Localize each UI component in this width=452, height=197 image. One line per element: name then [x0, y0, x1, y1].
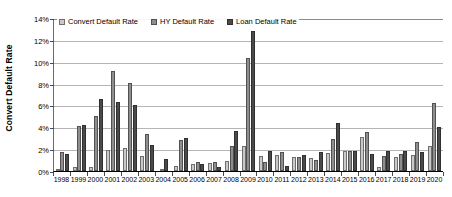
- y-axis-tick-label: 12%: [34, 36, 49, 45]
- bar-group-2012: [291, 19, 308, 171]
- bar-group-2006: [189, 19, 206, 171]
- bar-2004-loan: [164, 159, 168, 171]
- bar-2020-hy: [432, 103, 436, 171]
- bar-2019-hy: [415, 142, 419, 172]
- bar-group-2018: [392, 19, 409, 171]
- bar-2017-hy: [382, 156, 386, 171]
- bar-group-2014: [325, 19, 342, 171]
- bar-group-1998: [54, 19, 71, 171]
- y-axis-tickmark: [50, 150, 54, 151]
- bar-2019-convert: [411, 155, 415, 171]
- bar-group-2004: [155, 19, 172, 171]
- x-axis-tick-label: 2011: [274, 176, 289, 183]
- chart-legend: Convert Default RateHY Default RateLoan …: [57, 15, 299, 28]
- bar-group-2013: [308, 19, 325, 171]
- bar-2008-hy: [230, 146, 234, 171]
- x-axis-tick-label: 2006: [189, 176, 205, 183]
- legend-entry-hy[interactable]: HY Default Rate: [151, 17, 214, 26]
- y-axis-tick-label: 10%: [34, 58, 49, 67]
- x-axis-tick-label: 2007: [206, 176, 222, 183]
- bar-2001-convert: [106, 150, 110, 171]
- legend-entry-loan[interactable]: Loan Default Rate: [227, 17, 296, 26]
- legend-label: Loan Default Rate: [236, 17, 296, 26]
- bar-group-2000: [88, 19, 105, 171]
- bar-1999-loan: [82, 125, 86, 171]
- y-axis-tick-labels: 0%2%4%6%8%10%12%14%: [16, 14, 52, 172]
- y-axis-tick-label: 0%: [38, 168, 49, 177]
- bar-2016-hy: [365, 132, 369, 171]
- bar-group-2007: [206, 19, 223, 171]
- bar-2002-hy: [128, 83, 132, 171]
- x-axis-tickmark: [443, 172, 444, 176]
- x-axis-tick-label: 1999: [71, 176, 87, 183]
- x-axis-tick-label: 2008: [223, 176, 239, 183]
- bar-2013-convert: [309, 158, 313, 171]
- y-axis-tick-label: 4%: [38, 124, 49, 133]
- bar-group-2009: [240, 19, 257, 171]
- bar-2003-loan: [150, 145, 154, 171]
- y-axis-title-text: Convert Default Rate: [4, 44, 14, 131]
- x-axis-tick-label: 2016: [359, 176, 375, 183]
- y-axis-tickmark: [50, 41, 54, 42]
- bar-2009-hy: [246, 58, 250, 171]
- x-axis-tick-label: 2019: [410, 176, 426, 183]
- bar-2010-loan: [268, 151, 272, 171]
- bar-2011-convert: [275, 155, 279, 171]
- default-rate-bar-chart: Convert Default Rate 0%2%4%6%8%10%12%14%…: [0, 0, 452, 197]
- x-axis-tick-label: 2013: [308, 176, 324, 183]
- bar-2015-hy: [348, 151, 352, 171]
- x-axis-tick-label: 2002: [122, 176, 138, 183]
- bar-group-2010: [257, 19, 274, 171]
- bar-2013-loan: [319, 152, 323, 171]
- bar-2008-loan: [234, 131, 238, 171]
- bar-2010-convert: [259, 156, 263, 171]
- x-axis-tick-label: 1998: [54, 176, 70, 183]
- bar-2005-hy: [179, 140, 183, 171]
- bar-2004-convert: [160, 169, 164, 171]
- bar-2011-hy: [280, 152, 284, 171]
- bar-2012-convert: [292, 157, 296, 171]
- bar-2015-loan: [353, 151, 357, 171]
- bar-group-2017: [375, 19, 392, 171]
- bar-1999-convert: [73, 167, 77, 171]
- x-axis-tick-label: 2001: [105, 176, 121, 183]
- bar-group-2019: [409, 19, 426, 171]
- bar-2014-loan: [336, 123, 340, 171]
- bar-2013-hy: [314, 160, 318, 171]
- bar-1998-convert: [56, 169, 60, 171]
- legend-swatch-loan-icon: [227, 19, 233, 25]
- bar-2005-convert: [174, 166, 178, 171]
- x-axis-tick-label: 2012: [291, 176, 307, 183]
- bar-2018-loan: [403, 151, 407, 171]
- y-axis-tickmark: [50, 63, 54, 64]
- legend-label: HY Default Rate: [160, 17, 214, 26]
- bar-2012-loan: [302, 155, 306, 171]
- bar-group-1999: [71, 19, 88, 171]
- bar-2012-hy: [297, 157, 301, 171]
- bar-2014-convert: [326, 153, 330, 171]
- bar-group-2002: [122, 19, 139, 171]
- bar-2009-loan: [251, 31, 255, 171]
- bar-2005-loan: [184, 138, 188, 171]
- bar-2003-convert: [140, 156, 144, 171]
- bar-2009-convert: [242, 146, 246, 171]
- bar-2007-hy: [213, 162, 217, 171]
- x-axis-tick-label: 2004: [155, 176, 171, 183]
- x-axis-tick-label: 2005: [172, 176, 188, 183]
- bar-group-2011: [274, 19, 291, 171]
- bar-2016-convert: [360, 137, 364, 171]
- bars-layer: [54, 19, 443, 171]
- bar-2002-loan: [133, 105, 137, 171]
- bar-group-2015: [341, 19, 358, 171]
- bar-group-2003: [139, 19, 156, 171]
- y-axis-tickmark: [50, 19, 54, 20]
- legend-entry-convert[interactable]: Convert Default Rate: [59, 17, 138, 26]
- legend-swatch-convert-icon: [59, 19, 65, 25]
- bar-group-2016: [358, 19, 375, 171]
- x-axis-tick-label: 2018: [393, 176, 409, 183]
- bar-2019-loan: [420, 152, 424, 171]
- bar-1999-hy: [77, 126, 81, 171]
- y-axis-tick-label: 2%: [38, 146, 49, 155]
- bar-2001-hy: [111, 71, 115, 171]
- x-axis-tick-label: 2014: [325, 176, 341, 183]
